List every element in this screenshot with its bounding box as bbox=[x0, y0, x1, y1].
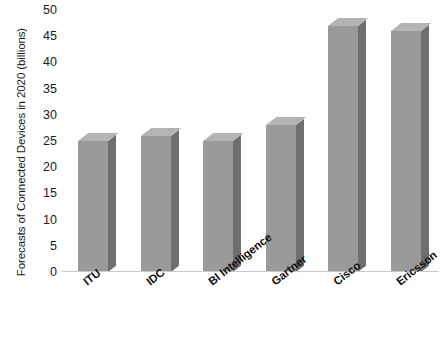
x-axis-line bbox=[62, 271, 439, 272]
bar-side-face bbox=[171, 130, 179, 272]
y-axis-tick-30: 30 bbox=[43, 108, 57, 122]
bar-front-face bbox=[203, 141, 233, 272]
bar-gartner bbox=[266, 125, 296, 272]
y-axis-tick-10: 10 bbox=[43, 213, 57, 227]
bar-itu bbox=[78, 141, 108, 272]
bar-front-face bbox=[266, 125, 296, 272]
y-axis-title: Forecasts of Connected Devices in 2020 (… bbox=[10, 12, 32, 292]
y-axis-tick-40: 40 bbox=[43, 55, 57, 69]
bar-cisco bbox=[328, 26, 358, 272]
y-axis-tick-0: 0 bbox=[50, 265, 57, 279]
y-axis-tick-35: 35 bbox=[43, 82, 57, 96]
bar-side-face bbox=[296, 119, 304, 272]
bar-idc bbox=[141, 136, 171, 272]
y-axis-tick-5: 5 bbox=[50, 239, 57, 253]
bar-side-face bbox=[108, 135, 116, 272]
y-axis-tick-15: 15 bbox=[43, 186, 57, 200]
bar-ericsson bbox=[391, 31, 421, 272]
bar-front-face bbox=[391, 31, 421, 272]
bar-side-face bbox=[421, 25, 429, 272]
bar-front-face bbox=[78, 141, 108, 272]
bar-front-face bbox=[328, 26, 358, 272]
plot-area: 05101520253035404550 bbox=[64, 10, 439, 272]
y-axis-tick-50: 50 bbox=[43, 3, 57, 17]
bar-chart: Forecasts of Connected Devices in 2020 (… bbox=[0, 0, 444, 364]
y-axis-tick-20: 20 bbox=[43, 160, 57, 174]
bar-front-face bbox=[141, 136, 171, 272]
y-axis-tick-45: 45 bbox=[43, 29, 57, 43]
bar-bi-intelligence bbox=[203, 141, 233, 272]
y-axis-tick-25: 25 bbox=[43, 134, 57, 148]
bar-side-face bbox=[358, 19, 366, 272]
